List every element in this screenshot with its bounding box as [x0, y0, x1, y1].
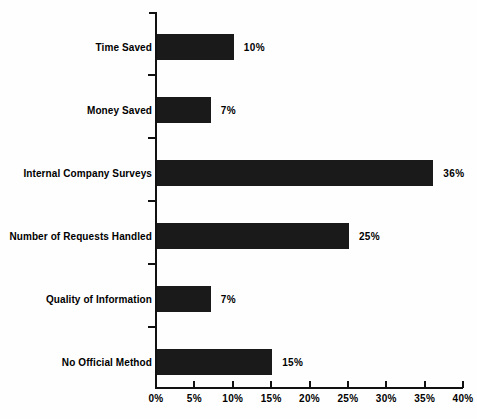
y-axis-tick [148, 137, 155, 139]
bar-row: Number of Requests Handled 25% [0, 218, 477, 254]
bar-value-label: 7% [221, 294, 236, 305]
bar [157, 34, 234, 60]
x-axis-tick-label: 40% [453, 393, 474, 404]
x-axis-tick [309, 381, 311, 388]
y-axis-tick [148, 263, 155, 265]
x-axis-tick-label: 15% [261, 393, 282, 404]
bar [157, 160, 433, 186]
bar-value-label: 25% [359, 231, 380, 242]
x-axis-tick-label: 10% [222, 393, 243, 404]
category-label: Quality of Information [46, 294, 152, 305]
bar-row: Money Saved 7% [0, 92, 477, 128]
x-axis-tick [385, 381, 387, 388]
x-axis-tick-label: 30% [376, 393, 397, 404]
bar-value-label: 7% [221, 105, 236, 116]
bar-row: No Official Method 15% [0, 344, 477, 380]
bar-row: Quality of Information 7% [0, 281, 477, 317]
x-axis-tick [347, 381, 349, 388]
bar-value-label: 15% [282, 357, 303, 368]
x-axis-tick-label: 35% [414, 393, 435, 404]
category-label: Money Saved [87, 105, 152, 116]
x-axis-tick [270, 381, 272, 388]
y-axis-line [155, 12, 157, 389]
x-axis-tick-label: 20% [299, 393, 320, 404]
x-axis-tick [193, 381, 195, 388]
bar [157, 286, 211, 312]
x-axis-tick [462, 381, 464, 388]
x-axis-tick-label: 0% [148, 393, 163, 404]
bar-row: Time Saved 10% [0, 29, 477, 65]
category-label: Internal Company Surveys [23, 168, 152, 179]
bar-value-label: 36% [443, 168, 464, 179]
bar-row: Internal Company Surveys 36% [0, 155, 477, 191]
category-label: Number of Requests Handled [9, 231, 152, 242]
x-axis-tick-label: 5% [187, 393, 202, 404]
y-axis-tick [148, 326, 155, 328]
y-axis-tick [148, 200, 155, 202]
bar [157, 223, 349, 249]
x-axis-tick [232, 381, 234, 388]
y-axis-tick [148, 74, 155, 76]
bar-chart: Time Saved 10% Money Saved 7% Internal C… [0, 0, 477, 419]
category-label: No Official Method [62, 357, 152, 368]
x-axis-tick [155, 381, 157, 388]
bar-value-label: 10% [244, 42, 265, 53]
category-label: Time Saved [96, 42, 152, 53]
x-axis-tick-label: 25% [337, 393, 358, 404]
bar [157, 97, 211, 123]
bar [157, 349, 272, 375]
x-axis-tick [424, 381, 426, 388]
